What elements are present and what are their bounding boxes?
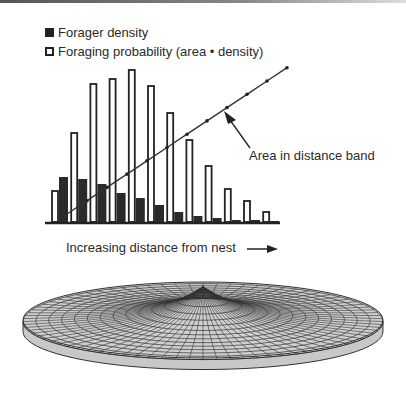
probability-bar	[263, 212, 269, 222]
probability-bar	[225, 189, 231, 222]
area-point	[105, 186, 109, 190]
density-bar	[251, 220, 260, 222]
arrow-right-icon	[247, 244, 279, 254]
probability-bar	[186, 140, 192, 222]
area-point	[265, 79, 269, 83]
area-line	[67, 68, 287, 214]
area-point	[125, 172, 129, 176]
arrowhead-icon	[224, 111, 236, 124]
area-point	[185, 132, 189, 136]
density-bar	[213, 218, 222, 222]
x-axis-text: Increasing distance from nest	[66, 240, 236, 255]
density-bar	[117, 193, 126, 222]
area-point	[165, 146, 169, 150]
area-point	[85, 199, 89, 203]
density-bar	[97, 184, 106, 222]
probability-bar	[129, 70, 135, 222]
density-bar	[136, 198, 145, 222]
area-point	[205, 119, 209, 123]
bar-chart	[0, 0, 406, 414]
foraging-surface-3d	[23, 282, 383, 370]
density-bar	[232, 220, 241, 222]
area-point	[145, 159, 149, 163]
area-point	[245, 93, 249, 97]
area-point	[285, 66, 289, 70]
probability-bar	[244, 201, 250, 222]
area-point	[225, 106, 229, 110]
density-bar	[155, 205, 164, 222]
probability-bar	[110, 79, 116, 222]
x-axis-label: Increasing distance from nest	[66, 240, 279, 255]
probability-bar	[206, 166, 212, 222]
density-bar	[174, 212, 183, 222]
probability-bar	[52, 191, 58, 222]
probability-bar	[90, 84, 96, 222]
annotation-arrow	[230, 120, 250, 148]
probability-bar	[148, 86, 154, 222]
density-bar	[193, 216, 202, 222]
density-bar	[59, 177, 68, 222]
annotation-label: Area in distance band	[249, 148, 375, 163]
probability-bar	[167, 113, 173, 222]
